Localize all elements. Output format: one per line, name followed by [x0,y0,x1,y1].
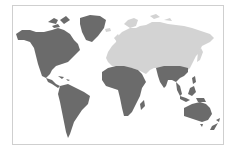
region-africa[interactable] [102,66,146,116]
region-iceland [105,28,111,32]
region-greenland[interactable] [80,15,106,42]
region-australia[interactable] [184,102,212,122]
region-tasmania [200,124,203,127]
region-maritime-southeast-asia[interactable] [180,76,206,102]
region-southeast-asia-peninsula [176,82,182,96]
region-south-asia[interactable] [156,66,188,88]
region-new-zealand[interactable] [210,118,220,130]
region-central-america[interactable] [46,78,60,88]
region-caribbean [58,76,70,81]
region-arctic-islands [150,14,172,21]
region-north-america[interactable] [16,28,80,78]
region-scandinavia [124,18,138,28]
region-madagascar[interactable] [140,100,145,110]
region-south-america[interactable] [58,84,90,138]
world-map [0,0,237,153]
region-arctic-archipelago [48,16,70,28]
